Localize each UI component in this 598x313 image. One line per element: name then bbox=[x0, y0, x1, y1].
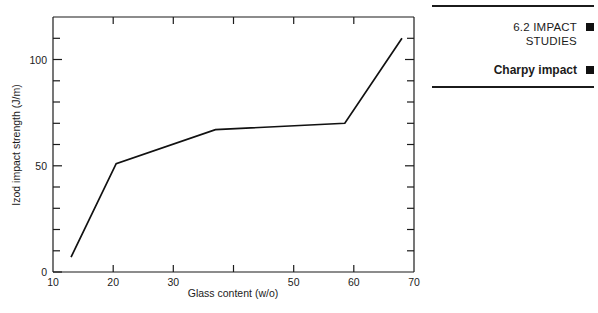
data-series-line bbox=[71, 38, 402, 257]
chart-axes bbox=[53, 17, 414, 272]
margin-entry-topic[interactable]: Charpy impact bbox=[430, 63, 598, 77]
chart-figure: 0 50 100 10 20 30 50 60 70 Glass content… bbox=[0, 0, 430, 313]
page-root: 0 50 100 10 20 30 50 60 70 Glass content… bbox=[0, 0, 598, 313]
x-axis-title: Glass content (w/o) bbox=[188, 287, 278, 299]
x-axis-ticks bbox=[113, 265, 354, 272]
line-chart-svg: 0 50 100 10 20 30 50 60 70 Glass content… bbox=[0, 0, 430, 313]
x-axis-ticks-top bbox=[113, 17, 354, 24]
margin-entry-section-label: 6.2 IMPACT STUDIES bbox=[513, 20, 577, 48]
filled-square-icon bbox=[586, 66, 594, 74]
panel-rule-bottom bbox=[432, 86, 594, 88]
x-tick-label-10: 10 bbox=[47, 276, 59, 288]
margin-entry-topic-label: Charpy impact bbox=[494, 63, 577, 77]
x-tick-label-30: 30 bbox=[167, 276, 179, 288]
x-tick-label-50: 50 bbox=[288, 276, 300, 288]
y-axis-ticks bbox=[53, 38, 62, 272]
x-tick-label-60: 60 bbox=[348, 276, 360, 288]
filled-square-icon bbox=[586, 23, 594, 31]
y-tick-label-100: 100 bbox=[29, 54, 47, 66]
margin-index-panel: 6.2 IMPACT STUDIES Charpy impact bbox=[430, 0, 598, 313]
margin-entry-section[interactable]: 6.2 IMPACT STUDIES bbox=[430, 20, 598, 48]
y-tick-label-50: 50 bbox=[35, 160, 47, 172]
x-tick-label-20: 20 bbox=[107, 276, 119, 288]
y-axis-title: Izod impact strength (J/m) bbox=[10, 84, 22, 205]
panel-rule-top bbox=[432, 5, 594, 7]
y-axis-ticks-right bbox=[405, 38, 414, 251]
x-tick-label-70: 70 bbox=[408, 276, 420, 288]
